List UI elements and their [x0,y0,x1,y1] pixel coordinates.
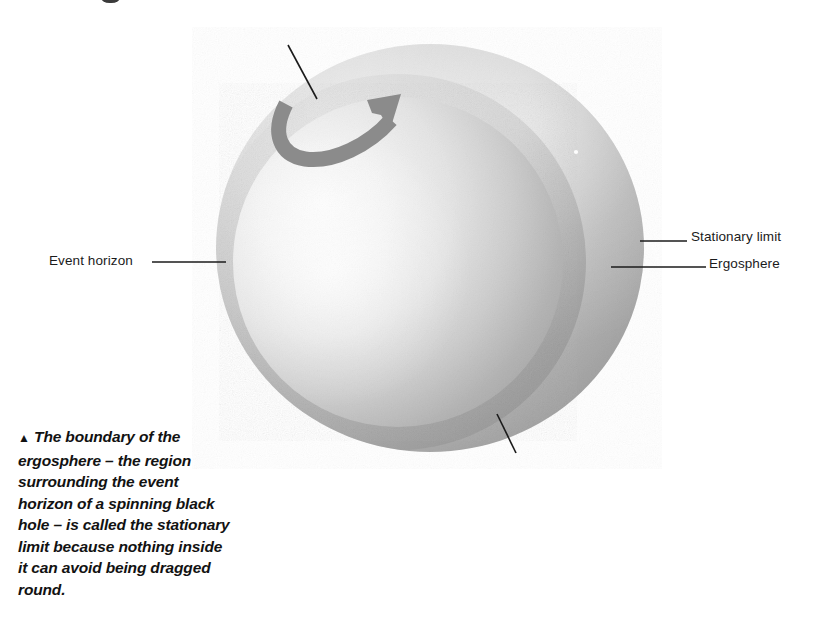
caption-marker-icon: ▲ [18,431,30,445]
caption-text: The boundary of the ergosphere – the reg… [18,428,230,598]
figure-caption: ▲ The boundary of the ergosphere – the r… [18,426,234,600]
figure-page: Event horizon Stationary limit Ergospher… [0,0,831,618]
label-event-horizon: Event horizon [49,254,133,268]
label-stationary-limit: Stationary limit [691,230,781,244]
label-ergosphere: Ergosphere [709,257,780,271]
highlight-speck [574,150,578,154]
